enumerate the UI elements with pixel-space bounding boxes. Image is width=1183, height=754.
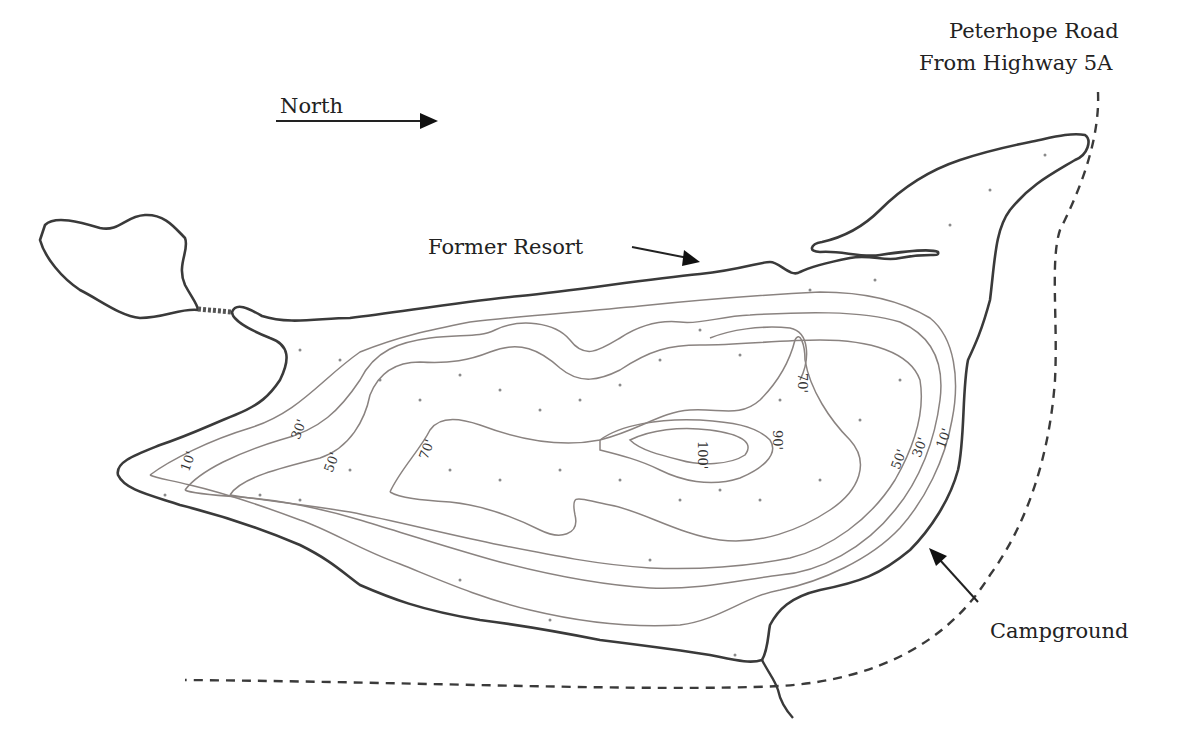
- campground-label: Campground: [990, 618, 1129, 644]
- depth-label-70ft-east: 70': [795, 373, 810, 393]
- outlet-stream: [762, 660, 793, 718]
- road-label-line1: Peterhope Road: [949, 18, 1119, 44]
- upper-pond: [40, 215, 198, 318]
- depth-label-100ft: 100': [695, 441, 710, 469]
- campground-arrow: [929, 548, 978, 602]
- depth-label-90ft: 90': [770, 430, 785, 450]
- former-resort-label: Former Resort: [428, 234, 583, 260]
- road-label-line2: From Highway 5A: [919, 50, 1112, 76]
- north-label: North: [280, 93, 343, 119]
- connecting-channel: [198, 309, 232, 312]
- former-resort-arrow: [632, 247, 700, 266]
